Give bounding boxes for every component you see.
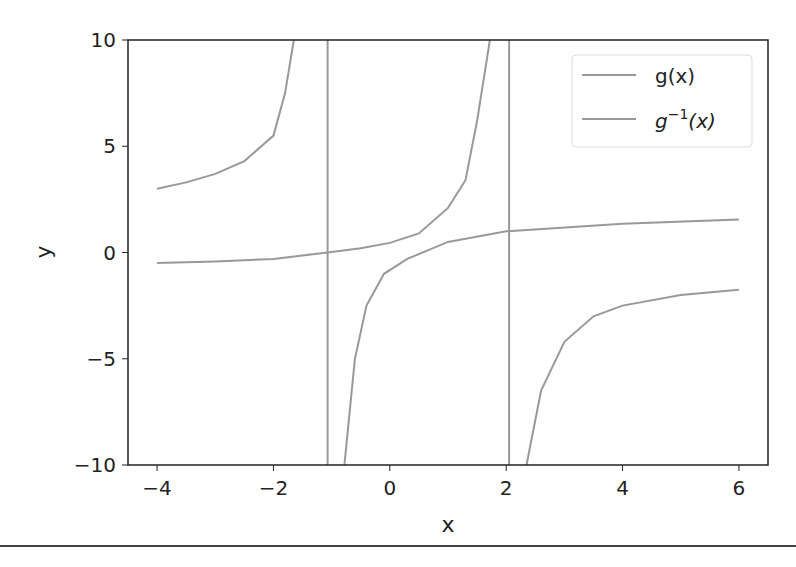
legend-label-g: g(x) — [655, 64, 695, 88]
x-tick-label: 4 — [616, 476, 629, 500]
legend: g(x) g−1(x) — [572, 55, 752, 147]
series-line-1 — [344, 220, 739, 465]
x-tick-label: −4 — [142, 476, 171, 500]
y-tick-label: 10 — [91, 28, 116, 52]
series-line-2 — [157, 40, 490, 263]
x-axis-ticks: −4−20246 — [142, 465, 745, 500]
x-tick-label: 0 — [383, 476, 396, 500]
x-tick-label: −2 — [259, 476, 288, 500]
x-tick-label: 2 — [500, 476, 513, 500]
bottom-border — [0, 545, 796, 567]
y-tick-label: −5 — [87, 347, 116, 371]
y-axis-ticks: 1050−5−10 — [74, 28, 128, 477]
y-tick-label: −10 — [74, 453, 116, 477]
x-tick-label: 6 — [733, 476, 746, 500]
series-line-1 — [157, 40, 294, 189]
y-tick-label: 5 — [103, 134, 116, 158]
y-axis-label: y — [31, 245, 56, 258]
series-line-2 — [527, 290, 739, 465]
x-axis-label: x — [441, 512, 454, 537]
y-tick-label: 0 — [103, 241, 116, 265]
chart: −4−20246 1050−5−10 x y g(x) g−1(x) — [0, 0, 796, 567]
